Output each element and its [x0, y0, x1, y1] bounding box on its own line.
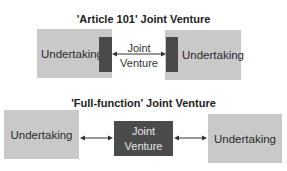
article-101-title: 'Article 101' Joint Venture [0, 13, 287, 25]
top-left-dark-strip [99, 37, 112, 72]
bottom-left-undertaking-label: Undertaking [10, 129, 72, 141]
top-left-undertaking-label: Undertaking [41, 48, 103, 60]
full-function-title: 'Full-function' Joint Venture [0, 97, 287, 109]
top-right-undertaking-label: Undertaking [182, 49, 244, 61]
bottom-right-double-arrow-icon [174, 134, 207, 142]
top-jv-line2: Venture [118, 57, 160, 70]
bottom-right-undertaking-box: Undertaking [208, 114, 282, 163]
bottom-left-double-arrow-icon [80, 134, 113, 142]
bottom-left-undertaking-box: Undertaking [4, 110, 79, 159]
bottom-jv-line1: Joint [132, 125, 155, 138]
top-right-dark-strip [166, 37, 178, 72]
bottom-right-undertaking-label: Undertaking [214, 133, 276, 145]
bottom-jv-line2: Venture [125, 140, 163, 153]
top-double-arrow-icon [112, 50, 166, 58]
bottom-joint-venture-box: Joint Venture [114, 121, 173, 156]
